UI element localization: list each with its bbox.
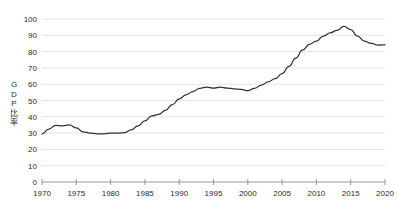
x-tick-label-1990: 1990	[170, 189, 188, 198]
y-tick-label-80: 80	[28, 48, 37, 57]
x-tick-label-2020: 2020	[376, 189, 394, 198]
y-axis-title-char-1: D	[11, 90, 17, 99]
y-tick-label-20: 20	[28, 145, 37, 154]
x-tick-label-1970: 1970	[33, 189, 51, 198]
y-axis-title-char-4: 率	[10, 117, 18, 127]
y-axis-title: GDP比率	[10, 80, 18, 127]
gridlines	[42, 19, 385, 166]
y-tick-label-70: 70	[28, 64, 37, 73]
y-tick-label-100: 100	[24, 15, 38, 24]
y-tick-label-30: 30	[28, 129, 37, 138]
y-tick-label-60: 60	[28, 80, 37, 89]
x-tick-label-2005: 2005	[273, 189, 291, 198]
y-tick-label-90: 90	[28, 31, 37, 40]
x-tick-label-1980: 1980	[102, 189, 120, 198]
gdp-ratio-line-chart: 0102030405060708090100 19701975198019851…	[0, 0, 397, 202]
series-line-0	[42, 26, 385, 134]
x-tick-label-1995: 1995	[205, 189, 223, 198]
y-axis-title-char-2: P	[11, 99, 16, 108]
x-tick-label-2015: 2015	[342, 189, 360, 198]
x-tick-label-1985: 1985	[136, 189, 154, 198]
x-tick-label-1975: 1975	[67, 189, 85, 198]
x-tick-label-2000: 2000	[239, 189, 257, 198]
x-tick-labels: 1970197519801985199019952000200520102015…	[33, 189, 394, 198]
x-tick-label-2010: 2010	[308, 189, 326, 198]
y-axis-title-char-0: G	[11, 80, 17, 89]
chart-canvas: 0102030405060708090100 19701975198019851…	[0, 0, 397, 202]
y-tick-labels: 0102030405060708090100	[24, 15, 38, 187]
y-axis-title-char-3: 比	[10, 108, 18, 118]
data-series-group	[42, 26, 385, 134]
x-axis	[42, 179, 385, 185]
y-tick-label-40: 40	[28, 113, 37, 122]
y-tick-label-10: 10	[28, 162, 37, 171]
y-tick-label-50: 50	[28, 97, 37, 106]
y-tick-label-0: 0	[33, 178, 38, 187]
